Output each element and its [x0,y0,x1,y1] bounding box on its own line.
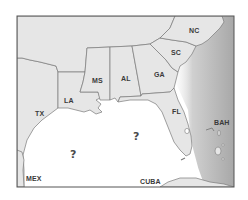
mexico-region [17,150,24,187]
map-graphic [0,0,248,200]
state-label-ga: GA [154,71,165,78]
country-label-mex: MEX [26,175,41,182]
state-label-tx: TX [35,110,44,117]
state-label-ms: MS [92,77,103,84]
country-label-cuba: CUBA [140,178,161,185]
state-label-al: AL [121,75,131,82]
state-label-sc: SC [171,49,181,56]
unknown-marker-west: ? [70,149,76,160]
unknown-marker-east: ? [133,131,139,142]
country-label-bah: BAH [214,119,229,126]
state-label-fl: FL [172,108,181,115]
state-label-la: LA [64,97,74,104]
lake-okeechobee [185,128,189,133]
state-label-nc: NC [189,27,199,34]
gulf-region-map: TX LA MS AL GA SC NC FL MEX CUBA BAH ? ? [0,0,248,200]
